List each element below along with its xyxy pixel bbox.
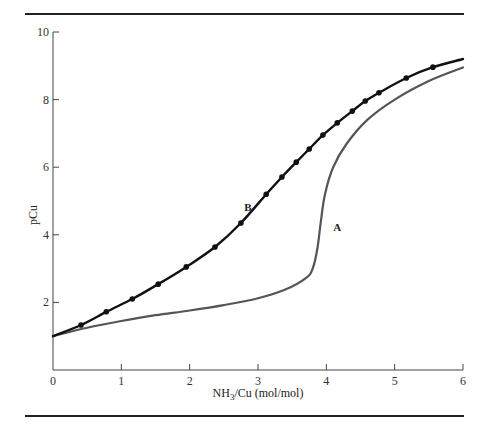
- y-tick-label: 2: [43, 295, 49, 309]
- x-tick-label: 5: [392, 374, 398, 388]
- axis-labels: pCu NH3/Cu (mol/mol): [26, 205, 303, 402]
- x-axis-title-pre: NH: [213, 386, 231, 400]
- y-tick-label: 8: [43, 93, 49, 107]
- titration-chart: 2468100123456 AB pCu NH3/Cu (mol/mol): [0, 0, 491, 427]
- x-axis-title: NH3/Cu (mol/mol): [213, 386, 304, 402]
- y-tick-label: 6: [43, 160, 49, 174]
- x-tick-label: 1: [118, 374, 124, 388]
- x-tick-label: 4: [323, 374, 329, 388]
- data-point-marker: [403, 75, 409, 81]
- data-point-marker: [350, 108, 356, 114]
- data-point-marker: [78, 322, 84, 328]
- curves: AB: [53, 59, 463, 336]
- y-axis-title: pCu: [26, 205, 40, 225]
- data-point-marker: [155, 281, 161, 287]
- curve-label-a: A: [333, 221, 341, 233]
- data-point-marker: [104, 309, 110, 315]
- curve-b-line: [53, 59, 463, 336]
- curve-a-line: [53, 68, 463, 337]
- data-point-marker: [376, 90, 382, 96]
- x-tick-label: 0: [50, 374, 56, 388]
- data-point-marker: [183, 264, 189, 270]
- data-point-marker: [212, 244, 218, 250]
- data-point-marker: [320, 132, 326, 138]
- data-point-marker: [279, 174, 285, 180]
- data-point-marker: [293, 159, 299, 165]
- series-a: A: [53, 68, 463, 337]
- series-b: B: [53, 59, 463, 336]
- curve-label-b: B: [244, 201, 252, 213]
- data-point-marker: [306, 146, 312, 152]
- x-tick-label: 2: [187, 374, 193, 388]
- y-tick-label: 10: [37, 25, 49, 39]
- data-point-marker: [334, 120, 340, 126]
- x-axis-title-post: /Cu (mol/mol): [234, 386, 303, 400]
- data-point-marker: [430, 64, 436, 70]
- y-tick-label: 4: [43, 228, 49, 242]
- x-tick-label: 6: [460, 374, 466, 388]
- data-point-marker: [362, 98, 368, 104]
- data-point-marker: [263, 191, 269, 197]
- data-point-marker: [238, 220, 244, 226]
- bottom-rule: [25, 415, 464, 417]
- data-point-marker: [129, 296, 135, 302]
